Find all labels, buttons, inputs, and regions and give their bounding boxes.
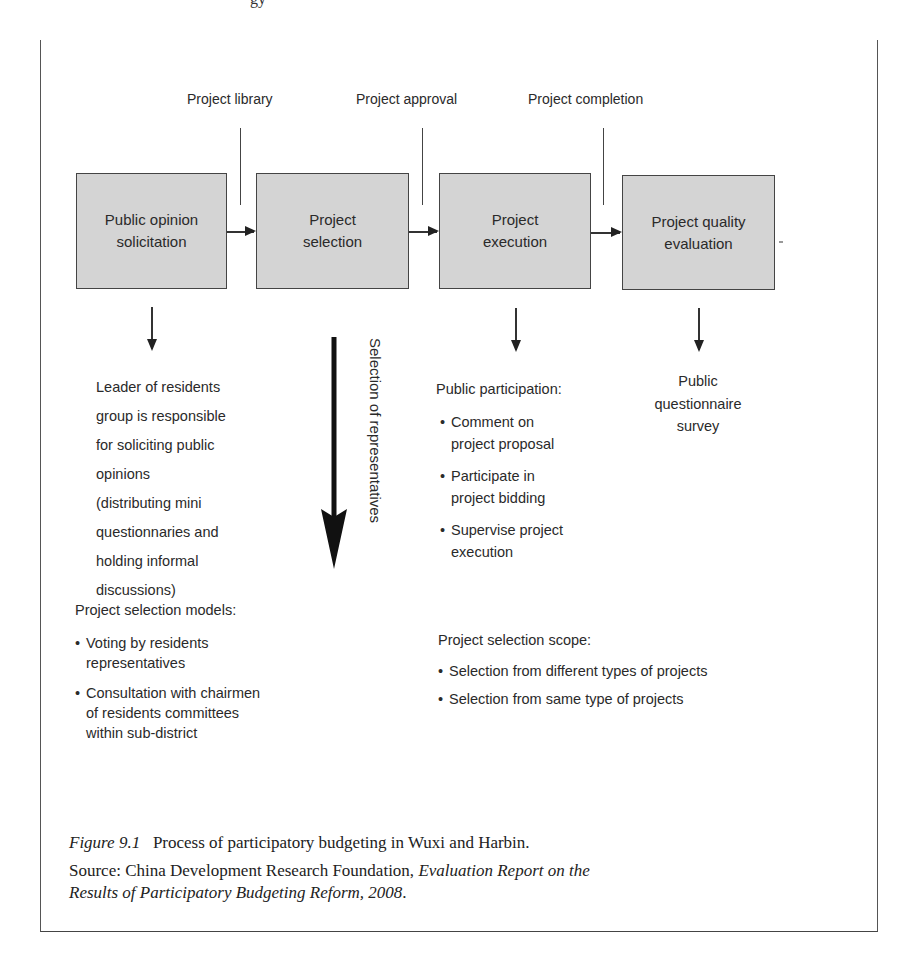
selection-scope-item: Selection from same type of projects: [438, 689, 707, 710]
stage-box-project-execution: Projectexecution: [439, 173, 591, 289]
note-line: opinions: [96, 460, 226, 489]
stage-box-project-quality-evaluation: Project qualityevaluation: [622, 175, 775, 290]
solicitation-note: Leader of residents group is responsible…: [96, 373, 226, 605]
source-title-line1: Evaluation Report on the: [418, 861, 589, 880]
selection-of-representatives-label: Selection of representatives: [367, 338, 384, 523]
stage-label: solicitation: [105, 231, 198, 253]
note-line: Leader of residents: [96, 373, 226, 402]
arrow-right-icon: [227, 231, 254, 233]
public-participation-item: Participate in project bidding: [440, 465, 563, 509]
figure-number: Figure 9.1: [69, 833, 140, 852]
selection-scope-item: Selection from different types of projec…: [438, 661, 707, 682]
milestone-project-library: Project library: [187, 91, 273, 107]
arrow-down-icon: [151, 307, 153, 349]
selection-scope-title: Project selection scope:: [438, 630, 707, 651]
selection-scope: Project selection scope: Selection from …: [438, 630, 707, 710]
stage-label: Project: [303, 209, 362, 231]
public-participation-title: Public participation:: [436, 378, 563, 400]
selection-model-item: Voting by residents representatives: [75, 633, 260, 673]
note-line: holding informal: [96, 547, 226, 576]
stage-label: selection: [303, 231, 362, 253]
stage-label: Project: [483, 209, 547, 231]
note-line: survey: [640, 415, 756, 438]
note-line: (distributing mini: [96, 489, 226, 518]
note-line: for soliciting public: [96, 431, 226, 460]
milestone-tick-approval: [422, 128, 423, 205]
public-participation: Public participation: Comment on project…: [436, 378, 563, 563]
source-title-line2: Results of Participatory Budgeting Refor…: [69, 883, 402, 902]
public-participation-item: Supervise project execution: [440, 519, 563, 563]
arrow-down-icon: [698, 308, 700, 350]
selection-models-title: Project selection models:: [75, 600, 260, 620]
note-line: Public: [640, 370, 756, 393]
source-prefix: Source: China Development Research Found…: [69, 861, 418, 880]
note-line: questionnaries and: [96, 518, 226, 547]
figure-title: Process of participatory budgeting in Wu…: [153, 833, 530, 852]
stray-dash: [779, 241, 783, 243]
arrow-right-icon: [591, 232, 620, 234]
note-line: questionnaire: [640, 393, 756, 416]
figure-source: Source: China Development Research Found…: [69, 860, 590, 904]
arrow-right-icon: [409, 231, 437, 233]
milestone-project-completion: Project completion: [528, 91, 643, 107]
milestone-project-approval: Project approval: [356, 91, 457, 107]
stage-box-project-selection: Projectselection: [256, 173, 409, 289]
stage-label: Public opinion: [105, 209, 198, 231]
selection-model-item: Consultation with chairmen of residents …: [75, 683, 260, 743]
public-participation-item: Comment on project proposal: [440, 411, 563, 455]
stage-label: evaluation: [651, 233, 745, 255]
stage-label: Project quality: [651, 211, 745, 233]
milestone-tick-completion: [603, 128, 604, 205]
page-header-fragment: gy: [250, 0, 266, 8]
milestone-tick-library: [240, 128, 241, 205]
stage-label: execution: [483, 231, 547, 253]
selection-models: Project selection models: Voting by resi…: [75, 600, 260, 743]
figure-caption: Figure 9.1 Process of participatory budg…: [69, 832, 530, 854]
selection-of-representatives-arrow-icon: [321, 337, 361, 569]
stage-box-public-opinion-solicitation: Public opinionsolicitation: [76, 173, 227, 289]
evaluation-note: Public questionnaire survey: [640, 370, 756, 438]
note-line: group is responsible: [96, 402, 226, 431]
arrow-down-icon: [515, 308, 517, 350]
source-suffix: .: [402, 883, 406, 902]
